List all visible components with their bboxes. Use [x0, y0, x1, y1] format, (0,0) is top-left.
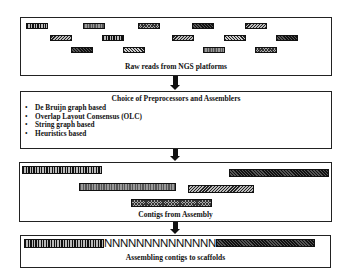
- read-fragment: [192, 23, 214, 29]
- read-fragment: [245, 23, 267, 29]
- contigs-caption: Contigs from Assembly: [20, 210, 331, 219]
- scaffolds-box: NNNNNNNNNNNNNN Assembling contigs to sca…: [20, 235, 331, 268]
- read-fragment: [172, 35, 194, 41]
- scaffold-left-contig: [24, 239, 104, 248]
- read-fragment: [50, 35, 72, 41]
- contig-bar: [131, 199, 212, 207]
- contig-bar: [22, 166, 102, 174]
- raw-reads-caption: Raw reads from NGS platforms: [21, 62, 331, 71]
- assembler-choice-title: Choice of Preprocessors and Assemblers: [21, 94, 331, 103]
- read-fragment: [26, 23, 48, 29]
- scaffold-right-contig: [216, 239, 315, 247]
- contig-bar: [188, 185, 254, 193]
- read-fragment: [203, 47, 225, 53]
- scaffold-gap-n-string: NNNNNNNNNNNNNN: [104, 237, 216, 249]
- read-fragment: [138, 23, 160, 29]
- read-fragment: [224, 35, 246, 41]
- raw-reads-box: Raw reads from NGS platforms: [20, 17, 332, 76]
- read-fragment: [71, 47, 93, 53]
- read-fragment: [102, 35, 124, 41]
- assembler-choice-box: Choice of Preprocessors and Assemblers •…: [20, 91, 332, 149]
- read-fragment: [83, 23, 105, 29]
- contig-bar: [229, 169, 329, 177]
- scaffolds-caption: Assembling contigs to scaffolds: [21, 253, 330, 262]
- contig-bar: [79, 183, 176, 191]
- list-item: •Heuristics based: [25, 130, 142, 139]
- read-fragment: [255, 47, 277, 53]
- read-fragment: [123, 47, 145, 53]
- read-fragment: [276, 35, 298, 41]
- assembler-type-list: •De Bruijn graph based •Overlap Layout C…: [25, 104, 142, 138]
